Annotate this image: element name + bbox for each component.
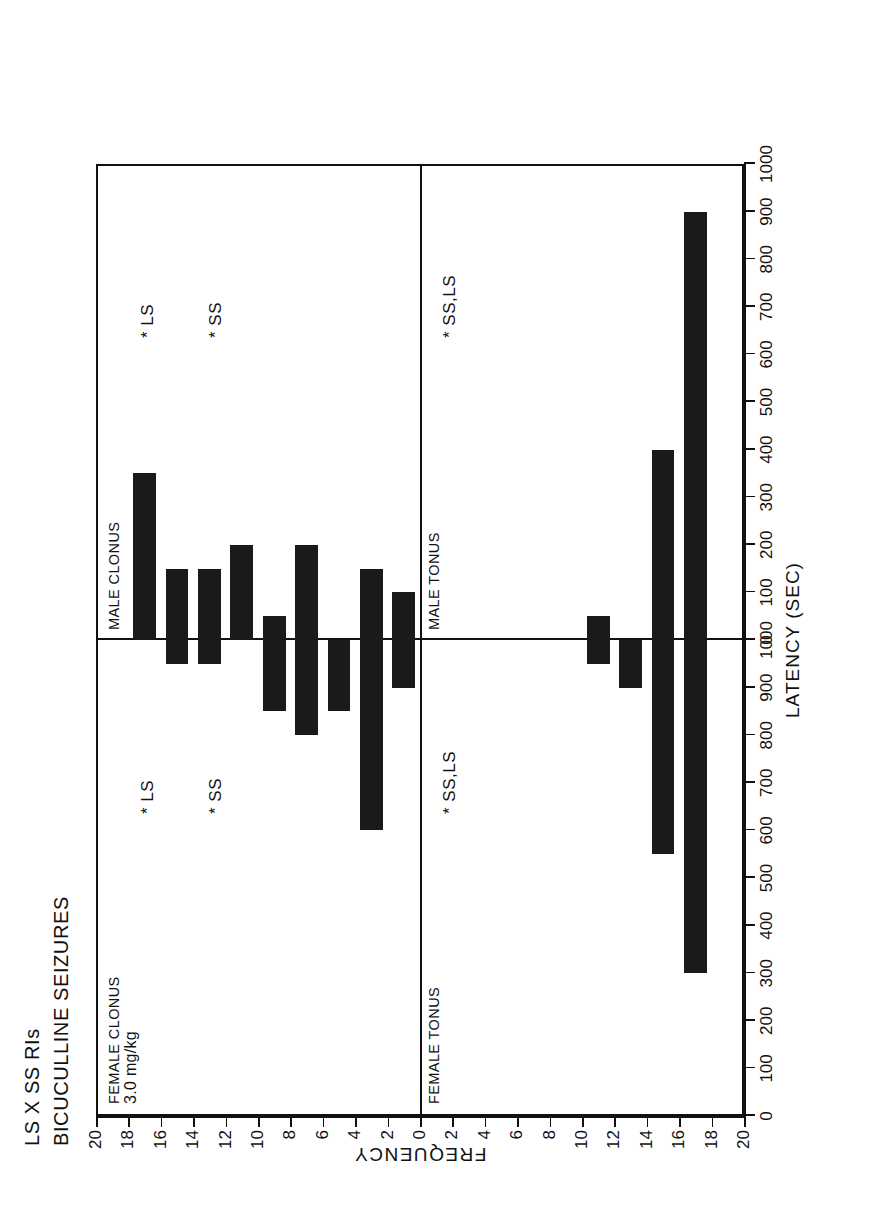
latency-axis-title: LATENCY (SEC) [782,164,804,1116]
frequency-tick [355,1116,357,1127]
latency-tick-label: 500 [757,388,777,416]
latency-tick-label: 900 [757,197,777,225]
frequency-tick [161,1116,163,1127]
annotation-female-clonus-ss: * SS [206,778,226,814]
bar [684,212,707,640]
latency-tick [744,1067,755,1069]
bar [295,640,318,735]
plot-area: FEMALE CLONUS 3.0 mg/kg FEMALE TONUS MAL… [96,164,744,1116]
annotation-male-clonus-ss: * SS [206,302,226,338]
frequency-tick-label: 18 [118,1130,138,1149]
latency-tick [744,734,755,736]
latency-tick [744,781,755,783]
latency-tick [744,876,755,878]
frequency-axis: 201816141210864202468101214161820 FREQUE… [96,1116,744,1168]
latency-tick [744,162,755,164]
frequency-tick [647,1116,649,1127]
figure: LS X SS RIs BICUCULLINE SEIZURES FEMALE … [0,0,869,1228]
frequency-tick [323,1116,325,1127]
latency-tick-label: 1000 [757,145,777,183]
panel-female-clonus: FEMALE CLONUS 3.0 mg/kg [98,640,420,1114]
latency-tick-label: 900 [757,673,777,701]
frequency-tick [388,1116,390,1127]
frequency-tick-label: 10 [248,1130,268,1149]
bar [295,545,318,640]
panel-male-clonus: MALE CLONUS [98,166,420,640]
annotation-male-clonus-ls: * LS [138,304,158,338]
frequency-tick [517,1116,519,1127]
latency-tick [744,448,755,450]
frequency-tick-label: 4 [475,1130,495,1139]
bar [263,640,286,711]
latency-tick [744,543,755,545]
latency-tick-label: 400 [757,435,777,463]
frequency-tick-label: 20 [734,1130,754,1149]
latency-tick-label: 600 [757,340,777,368]
latency-tick-label: 400 [757,911,777,939]
latency-tick-label: 300 [757,959,777,987]
frequency-tick-label: 2 [442,1130,462,1139]
latency-axis: 0100200300400500600700800900100001002003… [744,164,800,1116]
frequency-tick [582,1116,584,1127]
bar [166,569,189,640]
rotated-figure-canvas: LS X SS RIs BICUCULLINE SEIZURES FEMALE … [0,0,869,1228]
bar [166,640,189,664]
bar [652,640,675,854]
latency-tick [744,972,755,974]
latency-tick [744,829,755,831]
latency-tick [744,258,755,260]
latency-tick-label: 200 [757,531,777,559]
frequency-tick [614,1116,616,1127]
panel-male-tonus: MALE TONUS [420,166,742,640]
frequency-tick [420,1116,422,1127]
frequency-tick-label: 6 [507,1130,527,1139]
frequency-tick-label: 14 [183,1130,203,1149]
bar [587,616,610,640]
bar [684,640,707,973]
latency-tick-label: 800 [757,721,777,749]
frequency-tick-label: 2 [378,1130,398,1139]
bar [652,450,675,640]
latency-tick [744,305,755,307]
latency-tick-label: 600 [757,816,777,844]
latency-tick [744,924,755,926]
frequency-tick [96,1116,98,1127]
latency-tick [744,400,755,402]
latency-tick [744,1019,755,1021]
frequency-tick [550,1116,552,1127]
frequency-tick-label: 8 [540,1130,560,1139]
annotation-female-clonus-ls: * LS [138,780,158,814]
bar [392,592,415,640]
latency-tick [744,496,755,498]
latency-tick-label: 100 [757,578,777,606]
panel-female-tonus: FEMALE TONUS [420,640,742,1114]
latency-tick-label: 700 [757,769,777,797]
bar [198,640,221,664]
frequency-tick [485,1116,487,1127]
frequency-tick [712,1116,714,1127]
frequency-tick [258,1116,260,1127]
bar [587,640,610,664]
bar [619,640,642,688]
panel-label-female-clonus: FEMALE CLONUS 3.0 mg/kg [106,976,140,1104]
panel-label-male-tonus: MALE TONUS [426,532,442,630]
panel-label-female-tonus: FEMALE TONUS [426,987,442,1104]
frequency-tick [290,1116,292,1127]
title-block: LS X SS RIs BICUCULLINE SEIZURES [18,896,76,1146]
bar [392,640,415,688]
panel-label-male-clonus: MALE CLONUS [106,522,122,630]
latency-tick-label: 0 [757,635,777,644]
latency-tick-label: 700 [757,293,777,321]
frequency-tick [128,1116,130,1127]
frequency-tick-label: 20 [86,1130,106,1149]
figure-subtitle-line-2: BICUCULLINE SEIZURES [47,896,76,1146]
figure-title-line-1: LS X SS RIs [18,896,47,1146]
latency-tick-label: 500 [757,864,777,892]
frequency-tick [744,1116,746,1127]
bar [328,640,351,711]
latency-tick [744,686,755,688]
frequency-tick-label: 8 [280,1130,300,1139]
latency-tick [744,638,755,640]
latency-tick-label: 0 [757,1111,777,1120]
bar [133,473,156,640]
